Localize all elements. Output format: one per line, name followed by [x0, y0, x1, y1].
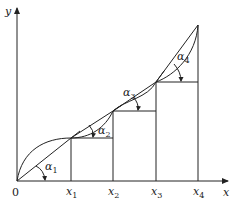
svg-text:α4: α4	[177, 50, 190, 65]
y-axis-label: y	[4, 5, 12, 18]
x-tick-1: x1	[66, 185, 77, 200]
piecewise-linearization-diagram: y x 0 x1 x2 x3 x4 α1 α2 α3 α4	[0, 0, 236, 204]
nonlinear-curve	[17, 25, 198, 181]
svg-text:α1: α1	[45, 160, 58, 175]
x-tick-2: x2	[108, 185, 119, 200]
angle-label-3: α3	[123, 86, 136, 101]
x-axis-label: x	[223, 186, 230, 199]
angle-label-1: α1	[45, 160, 58, 175]
svg-text:x1: x1	[66, 185, 77, 200]
x-tick-3: x3	[151, 185, 162, 200]
chord-polyline	[17, 25, 198, 181]
svg-text:x4: x4	[193, 185, 204, 200]
svg-text:α3: α3	[123, 86, 136, 101]
origin-label: 0	[12, 186, 19, 199]
diagram-svg: y x 0 x1 x2 x3 x4 α1 α2 α3 α4	[0, 0, 236, 204]
svg-text:x3: x3	[151, 185, 162, 200]
chord-extension-2	[113, 105, 122, 111]
angle-label-2: α2	[98, 124, 111, 139]
angle-label-4: α4	[177, 50, 190, 65]
svg-text:x2: x2	[108, 185, 119, 200]
svg-text:α2: α2	[98, 124, 111, 139]
angle-arc-1	[36, 166, 45, 180]
angle-arc-2	[89, 125, 93, 137]
x-tick-4: x4	[193, 185, 204, 200]
